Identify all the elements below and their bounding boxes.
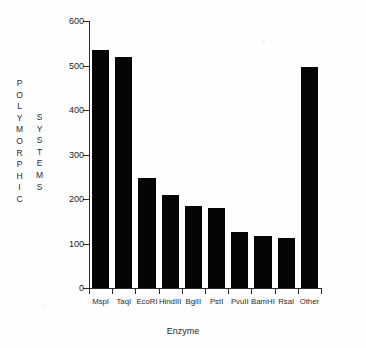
x-label-other: Other [300,297,320,306]
x-tick-5 [205,288,206,294]
y-axis-label-systems-char-6: S [37,182,43,194]
x-tick-end [321,288,322,294]
bar-ecori [138,178,155,288]
bar-psti [208,208,225,288]
x-label-hindiii: HindIII [159,297,182,306]
y-axis-label-systems-char-0: S [37,112,43,124]
y-tick-200 [83,199,90,200]
bar-pvuii [231,232,248,288]
bar-mspi [92,50,109,288]
x-tick-8 [275,288,276,294]
y-axis-label-systems: SYSTEMS [36,112,43,193]
y-tick-label-400: 400 [69,105,84,115]
y-tick-label-500: 500 [69,61,84,71]
y-tick-500 [83,66,90,67]
y-tick-300 [83,155,90,156]
y-axis-label-systems-char-2: S [37,135,43,147]
x-axis-title: Enzyme [0,326,366,336]
y-axis-label-polymorphic-char-6: R [16,148,22,160]
x-tick-2 [135,288,136,294]
y-tick-label-200: 200 [69,194,84,204]
y-axis-label-polymorphic-char-5: O [16,136,23,148]
bar-other [301,67,318,288]
y-axis-label-polymorphic-char-10: C [16,194,22,206]
x-tick-7 [251,288,252,294]
x-tick-9 [298,288,299,294]
x-tick-4 [182,288,183,294]
y-axis-label-polymorphic-char-9: I [18,182,20,194]
x-tick-3 [159,288,160,294]
y-tick-label-0: 0 [79,283,84,293]
x-label-mspi: MspI [92,297,109,306]
y-axis-label-polymorphic: POLYMORPHIC [16,78,23,206]
x-label-psti: PstI [210,297,223,306]
bar-hindiii [162,195,179,288]
bar-rsai [278,238,295,288]
y-tick-400 [83,110,90,111]
y-tick-label-100: 100 [69,239,84,249]
bar-bglii [185,206,202,288]
x-label-rsai: RsaI [278,297,294,306]
y-tick-100 [83,244,90,245]
x-tick-0 [89,288,90,294]
x-tick-1 [112,288,113,294]
y-axis-label-polymorphic-char-3: Y [17,113,23,125]
y-axis-label-systems-char-5: M [36,170,43,182]
y-axis-label-systems-char-3: T [37,147,42,159]
bar-chart-figure: POLYMORPHIC SYSTEMS 0100200300400500600 … [0,0,366,348]
y-tick-label-600: 600 [69,16,84,26]
y-tick-600 [83,21,90,22]
y-axis-label-systems-char-1: Y [37,124,43,136]
x-tick-6 [228,288,229,294]
y-axis-label-polymorphic-char-4: M [16,124,23,136]
x-label-pvuii: PvuII [231,297,249,306]
y-axis-label-polymorphic-char-2: L [17,101,22,113]
bar-taqi [115,57,132,288]
y-axis-label-polymorphic-char-8: H [16,171,22,183]
x-label-ecori: EcoRI [136,297,157,306]
plot-area: 0100200300400500600 MspITaqIEcoRIHindIII… [89,21,321,288]
y-tick-label-300: 300 [69,150,84,160]
bar-bamhi [254,236,271,288]
y-axis-label-polymorphic-char-1: O [16,90,23,102]
x-label-bamhi: BamHI [251,297,275,306]
x-label-taqi: TaqI [116,297,131,306]
x-label-bglii: BglII [186,297,202,306]
y-axis-label-polymorphic-char-7: P [17,159,23,171]
y-axis-label-polymorphic-char-0: P [17,78,23,90]
y-axis-label-systems-char-4: E [37,158,43,170]
